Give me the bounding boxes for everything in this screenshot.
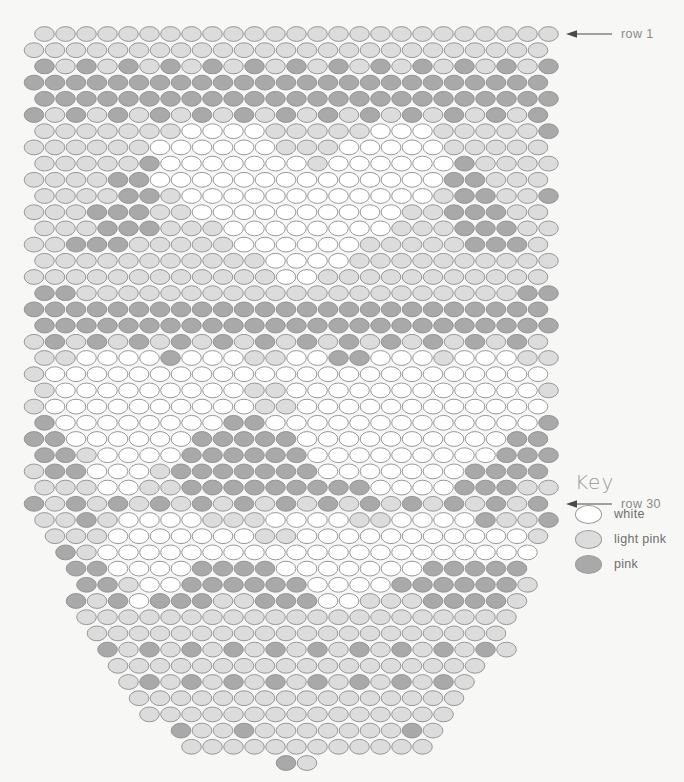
bead	[119, 124, 139, 139]
bead	[266, 415, 286, 430]
bead	[329, 577, 349, 592]
bead	[308, 91, 328, 106]
bead	[213, 108, 233, 123]
bead	[444, 367, 464, 382]
bead	[66, 172, 86, 187]
bead	[213, 367, 233, 382]
bead	[434, 642, 454, 657]
bead	[192, 561, 212, 576]
bead	[360, 691, 380, 706]
bead	[213, 172, 233, 187]
bead	[119, 577, 139, 592]
bead	[255, 270, 275, 285]
bead	[308, 642, 328, 657]
bead	[518, 124, 538, 139]
bead	[182, 318, 202, 333]
bead	[528, 399, 548, 414]
bead	[119, 513, 139, 528]
bead	[77, 577, 97, 592]
bead	[87, 75, 107, 90]
bead	[371, 286, 391, 301]
bead	[77, 91, 97, 106]
bead	[444, 140, 464, 155]
bead	[182, 513, 202, 528]
bead	[339, 723, 359, 738]
bead	[234, 172, 254, 187]
bead	[371, 610, 391, 625]
bead	[287, 91, 307, 106]
bead	[108, 529, 128, 544]
bead	[434, 156, 454, 171]
bead	[318, 626, 338, 641]
bead	[507, 75, 527, 90]
bead	[413, 545, 433, 560]
bead	[266, 513, 286, 528]
bead	[507, 270, 527, 285]
bead	[350, 91, 370, 106]
bead	[203, 59, 223, 74]
bead	[171, 108, 191, 123]
bead	[308, 545, 328, 560]
bead	[528, 237, 548, 252]
bead	[192, 140, 212, 155]
bead	[329, 610, 349, 625]
bead	[213, 691, 233, 706]
bead	[444, 237, 464, 252]
bead	[287, 739, 307, 754]
bead	[497, 221, 517, 236]
bead	[45, 367, 65, 382]
bead	[287, 448, 307, 463]
bead	[87, 464, 107, 479]
bead	[171, 302, 191, 317]
bead	[371, 253, 391, 268]
bead	[266, 253, 286, 268]
bead	[245, 610, 265, 625]
bead	[140, 318, 160, 333]
bead	[203, 448, 223, 463]
bead	[297, 367, 317, 382]
bead	[444, 399, 464, 414]
bead	[108, 237, 128, 252]
bead	[507, 302, 527, 317]
bead	[276, 43, 296, 58]
bead	[45, 432, 65, 447]
bead	[465, 432, 485, 447]
bead	[234, 140, 254, 155]
bead	[66, 367, 86, 382]
bead	[350, 707, 370, 722]
bead	[350, 383, 370, 398]
bead	[339, 561, 359, 576]
bead	[276, 464, 296, 479]
bead	[318, 464, 338, 479]
bead-swatch-light-pink	[575, 530, 602, 549]
bead	[161, 253, 181, 268]
bead	[528, 172, 548, 187]
bead	[150, 561, 170, 576]
bead	[528, 529, 548, 544]
bead	[129, 658, 149, 673]
bead	[108, 432, 128, 447]
bead	[318, 432, 338, 447]
bead	[539, 480, 559, 495]
bead	[182, 59, 202, 74]
bead	[140, 545, 160, 560]
bead	[245, 642, 265, 657]
bead	[539, 286, 559, 301]
bead	[213, 237, 233, 252]
bead	[24, 367, 44, 382]
bead	[234, 691, 254, 706]
bead	[297, 140, 317, 155]
bead	[539, 253, 559, 268]
bead	[465, 270, 485, 285]
bead	[392, 59, 412, 74]
bead	[98, 189, 118, 204]
bead	[486, 594, 506, 609]
bead	[150, 205, 170, 220]
bead	[224, 59, 244, 74]
bead	[108, 302, 128, 317]
bead	[518, 351, 538, 366]
bead	[245, 675, 265, 690]
bead	[392, 351, 412, 366]
bead	[350, 27, 370, 42]
bead	[87, 626, 107, 641]
